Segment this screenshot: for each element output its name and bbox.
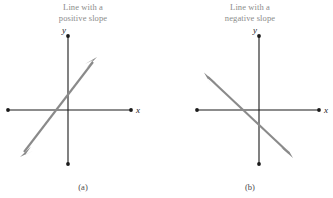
panel-a-title-line2: positive slope xyxy=(0,13,166,24)
panel-a-y-axis xyxy=(66,34,70,166)
panel-a-y-axis-label: y xyxy=(61,25,66,35)
panel-negative-slope: Line with a negative slope y x xyxy=(167,0,333,198)
panel-b-title: Line with a negative slope xyxy=(167,2,333,23)
panel-b-x-axis xyxy=(195,108,321,112)
panel-b-plot: y x xyxy=(167,24,333,174)
panel-b-slope-line xyxy=(204,73,293,159)
panel-b-y-axis-label: y xyxy=(252,25,257,35)
panel-a-caption: (a) xyxy=(0,182,166,192)
panel-b-caption: (b) xyxy=(167,182,333,192)
panel-b-title-line1: Line with a xyxy=(167,2,333,13)
panel-a-title-line1: Line with a xyxy=(0,2,166,13)
slope-figure: Line with a positive slope y x xyxy=(0,0,333,198)
panel-a-plot: y x xyxy=(0,24,166,174)
panel-b-title-line2: negative slope xyxy=(167,13,333,24)
panel-a-slope-line xyxy=(20,57,97,157)
panel-b-x-axis-label: x xyxy=(323,105,328,115)
panel-a-title: Line with a positive slope xyxy=(0,2,166,23)
panel-b-y-axis xyxy=(257,34,261,166)
panel-positive-slope: Line with a positive slope y x xyxy=(0,0,166,198)
panel-a-x-axis xyxy=(6,108,133,112)
panel-a-x-axis-label: x xyxy=(135,105,140,115)
